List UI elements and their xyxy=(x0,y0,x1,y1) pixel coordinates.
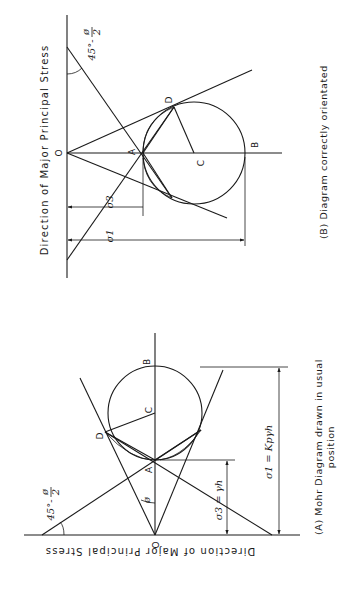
slip-line-2-b xyxy=(67,107,174,260)
label-c-b: C xyxy=(196,160,206,166)
angle-label-b: 45°- ø 2 xyxy=(80,27,102,62)
label-sigma1-b: σ1 xyxy=(104,229,115,242)
radius-cd-a xyxy=(105,413,155,432)
angle-den-a: 2 xyxy=(50,489,61,496)
label-b-b: B xyxy=(250,142,260,148)
angle-arc-a xyxy=(60,522,64,535)
label-a-a: A xyxy=(144,466,154,473)
label-sigma1-a: σ1 = Kpγh xyxy=(263,425,274,479)
angle-label-a: 45°- ø 2 xyxy=(39,487,61,522)
diagram-a: O A C B D ø σ3 = γh σ1 = Kpγh 45°- ø 2 D… xyxy=(24,333,336,557)
caption-b: (B) Diagram correctly orientated xyxy=(318,65,329,239)
label-d-a: D xyxy=(95,432,105,439)
label-sigma3-a: σ3 = γh xyxy=(213,480,224,520)
angle-arc-b xyxy=(67,68,82,74)
direction-label-a: Direction of Major Principal Stress xyxy=(45,546,256,557)
angle-main-a: 45°- xyxy=(45,499,56,522)
radius-cd-b xyxy=(174,107,194,153)
label-c-a: C xyxy=(144,407,154,413)
arc-near-a-a xyxy=(105,430,201,460)
angle-num-a: ø xyxy=(39,488,50,496)
caption-a-line2: position xyxy=(325,426,336,468)
label-d-b: D xyxy=(164,96,174,103)
label-sigma3-b: σ3 xyxy=(104,195,115,208)
diagram-b: O A C B D σ3 σ1 45°- ø 2 Direction of Ma… xyxy=(39,15,329,278)
angle-main-b: 45°- xyxy=(86,39,97,62)
slip-line-1-b xyxy=(67,47,172,198)
label-b-a: B xyxy=(142,359,152,365)
label-phi-a: ø xyxy=(141,496,152,504)
angle-den-b: 2 xyxy=(91,29,102,36)
angle-num-b: ø xyxy=(80,28,91,36)
mohr-diagram-figure: O A C B D σ3 σ1 45°- ø 2 Direction of Ma… xyxy=(0,0,348,604)
label-a-b: A xyxy=(127,148,137,155)
direction-label-b: Direction of Major Principal Stress xyxy=(39,45,50,256)
caption-a-line1: (A) Mohr Diagram drawn in usual xyxy=(313,359,324,535)
label-o-b: O xyxy=(54,149,64,156)
